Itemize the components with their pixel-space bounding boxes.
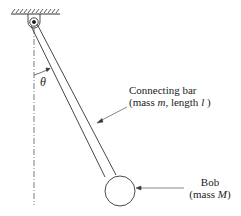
bob-label: Bob (mass M): [188, 176, 232, 200]
bob-subtitle: (mass M): [188, 188, 232, 200]
bob-title: Bob: [188, 176, 232, 188]
connecting-bar: [31, 24, 116, 177]
connecting-bar-subtitle: (mass m, length l ): [129, 96, 211, 108]
bob-mass: [105, 176, 135, 206]
bob-leader-arrow: [136, 186, 184, 190]
theta-arc: [34, 68, 50, 75]
connecting-bar-title: Connecting bar: [129, 84, 211, 96]
bar-leader-arrow: [97, 107, 127, 123]
connecting-bar-label: Connecting bar (mass m, length l ): [129, 84, 211, 108]
ceiling-support: [11, 9, 60, 14]
theta-label: θ: [40, 76, 46, 88]
